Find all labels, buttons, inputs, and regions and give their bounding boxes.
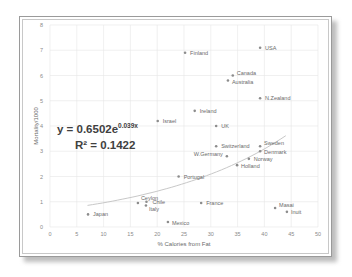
marker-icon bbox=[215, 125, 218, 128]
marker-icon bbox=[87, 213, 90, 216]
point-label: Chile bbox=[152, 199, 165, 205]
data-point: Finland bbox=[184, 50, 208, 56]
x-tick-label: 35 bbox=[235, 231, 241, 237]
data-point: Israel bbox=[156, 118, 176, 124]
y-tick-label: 8 bbox=[40, 22, 43, 28]
point-label: W.Germany bbox=[194, 151, 223, 157]
point-label: Holland bbox=[241, 163, 260, 169]
y-tick-label: 7 bbox=[40, 47, 43, 53]
marker-icon bbox=[259, 150, 262, 153]
equation-exponent: 0.039x bbox=[118, 122, 138, 129]
point-label: Sweden bbox=[264, 140, 284, 146]
scatter-chart: 05101520253035404550012345678 FinlandUSA… bbox=[0, 0, 352, 277]
trendline-equation: y = 0.6502e0.039x bbox=[57, 122, 138, 135]
point-label: Australia bbox=[232, 79, 254, 85]
marker-icon bbox=[184, 51, 187, 54]
data-point: Italy bbox=[145, 204, 160, 211]
marker-icon bbox=[259, 145, 262, 148]
data-point: USA bbox=[259, 45, 277, 51]
data-point: Sweden bbox=[259, 140, 284, 147]
x-tick-label: 10 bbox=[101, 231, 107, 237]
equation-base: y = 0.6502e bbox=[57, 123, 118, 135]
y-tick-label: 0 bbox=[40, 224, 43, 230]
y-tick-label: 1 bbox=[40, 199, 43, 205]
x-tick-label: 40 bbox=[261, 231, 267, 237]
point-label: Denmark bbox=[264, 149, 287, 155]
x-tick-label: 20 bbox=[154, 231, 160, 237]
y-tick-label: 6 bbox=[40, 73, 43, 79]
point-label: USA bbox=[265, 45, 277, 51]
x-tick-label: 45 bbox=[288, 231, 294, 237]
x-tick-label: 25 bbox=[181, 231, 187, 237]
y-tick-label: 3 bbox=[40, 148, 43, 154]
point-label: Ireland bbox=[200, 108, 217, 114]
point-label: Mexico bbox=[172, 220, 189, 226]
x-axis-title: % Calories from Fat bbox=[157, 241, 210, 247]
point-label: N.Zealand bbox=[265, 95, 290, 101]
y-tick-label: 5 bbox=[40, 98, 43, 104]
marker-icon bbox=[259, 97, 262, 100]
y-tick-label: 4 bbox=[40, 123, 43, 129]
data-point: N.Zealand bbox=[259, 95, 291, 101]
data-point: Mexico bbox=[167, 220, 190, 226]
x-tick-label: 5 bbox=[75, 231, 78, 237]
data-point: UK bbox=[215, 123, 229, 129]
data-point: France bbox=[200, 200, 223, 206]
point-label: Masai bbox=[279, 202, 294, 208]
marker-icon bbox=[259, 46, 262, 49]
data-point: Norway bbox=[248, 156, 273, 162]
marker-icon bbox=[286, 211, 289, 214]
marker-icon bbox=[227, 79, 230, 82]
marker-icon bbox=[274, 207, 277, 210]
marker-icon bbox=[231, 74, 234, 77]
marker-icon bbox=[145, 200, 148, 203]
marker-icon bbox=[248, 158, 251, 161]
marker-icon bbox=[137, 202, 140, 205]
point-label: Finland bbox=[190, 50, 208, 56]
x-tick-label: 0 bbox=[48, 231, 51, 237]
data-point: Inuit bbox=[286, 209, 302, 215]
data-point: Ireland bbox=[193, 108, 216, 114]
marker-icon bbox=[215, 145, 218, 148]
data-points: FinlandUSACanadaAustraliaN.ZealandIrelan… bbox=[87, 45, 302, 226]
r-squared: R² = 0.1422 bbox=[75, 139, 135, 151]
marker-icon bbox=[226, 155, 229, 158]
point-label: Israel bbox=[163, 118, 176, 124]
data-point: Holland bbox=[236, 163, 260, 169]
marker-icon bbox=[200, 202, 203, 205]
marker-icon bbox=[167, 221, 170, 224]
x-tick-label: 50 bbox=[315, 231, 321, 237]
point-label: Switzerland bbox=[221, 143, 249, 149]
x-tick-label: 15 bbox=[127, 231, 133, 237]
y-tick-label: 2 bbox=[40, 174, 43, 180]
point-label: Japan bbox=[93, 211, 108, 217]
y-axis-title: Mortality/1000 bbox=[33, 106, 39, 144]
point-label: Canada bbox=[237, 70, 257, 76]
data-point: Switzerland bbox=[215, 143, 250, 149]
point-label: Italy bbox=[149, 206, 159, 212]
point-label: UK bbox=[221, 123, 229, 129]
marker-icon bbox=[193, 110, 196, 113]
marker-icon bbox=[177, 175, 180, 178]
x-tick-label: 30 bbox=[208, 231, 214, 237]
point-label: Inuit bbox=[291, 209, 302, 215]
marker-icon bbox=[145, 204, 148, 207]
point-label: Norway bbox=[254, 156, 273, 162]
marker-icon bbox=[156, 120, 159, 123]
data-point: W.Germany bbox=[194, 151, 228, 157]
point-label: France bbox=[206, 200, 223, 206]
data-point: Australia bbox=[227, 79, 255, 85]
marker-icon bbox=[236, 164, 239, 167]
point-label: Portugal bbox=[184, 174, 205, 180]
data-point: Japan bbox=[87, 211, 108, 217]
